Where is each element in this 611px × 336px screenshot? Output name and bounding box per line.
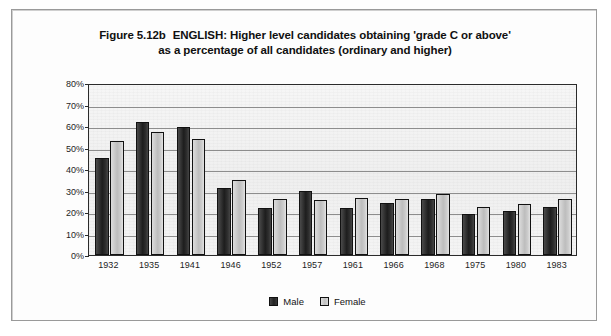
legend-swatch-male-icon bbox=[269, 297, 278, 306]
bar-male-1957 bbox=[299, 191, 313, 256]
bar-male-1941 bbox=[177, 127, 191, 255]
gridline bbox=[89, 107, 576, 108]
legend-swatch-female-icon bbox=[320, 297, 329, 306]
figure-root: Figure 5.12bENGLISH: Higher level candid… bbox=[0, 0, 611, 336]
bar-female-1980 bbox=[518, 204, 532, 255]
y-axis-tick bbox=[85, 256, 89, 257]
bar-female-1952 bbox=[273, 199, 287, 255]
bar-male-1946 bbox=[217, 188, 231, 255]
x-axis-label: 1980 bbox=[506, 260, 526, 270]
bar-female-1983 bbox=[558, 199, 572, 255]
legend-item-male: Male bbox=[269, 296, 304, 307]
bar-male-1952 bbox=[258, 208, 272, 255]
chart-legend: Male Female bbox=[12, 296, 611, 307]
x-axis-label: 1952 bbox=[261, 260, 281, 270]
legend-item-female: Female bbox=[320, 296, 366, 307]
y-axis-label: 20% bbox=[50, 208, 84, 218]
chart-title: Figure 5.12bENGLISH: Higher level candid… bbox=[48, 28, 562, 58]
x-axis-label: 1983 bbox=[547, 260, 567, 270]
legend-label-male: Male bbox=[283, 296, 304, 307]
x-axis-label: 1975 bbox=[465, 260, 485, 270]
chart-title-line-2: as a percentage of all candidates (ordin… bbox=[48, 43, 562, 58]
bar-male-1968 bbox=[421, 199, 435, 255]
bar-male-1983 bbox=[543, 207, 557, 255]
x-axis: 1932193519411946195219571961196619681975… bbox=[88, 260, 577, 274]
y-axis-label: 50% bbox=[50, 144, 84, 154]
x-axis-label: 1941 bbox=[180, 260, 200, 270]
legend-label-female: Female bbox=[334, 296, 366, 307]
y-axis-label: 80% bbox=[50, 79, 84, 89]
bar-female-1961 bbox=[355, 198, 369, 255]
y-axis-label: 40% bbox=[50, 165, 84, 175]
gridline bbox=[89, 128, 576, 129]
y-axis-label: 10% bbox=[50, 230, 84, 240]
bar-female-1932 bbox=[110, 141, 124, 255]
x-axis-label: 1968 bbox=[424, 260, 444, 270]
bar-male-1980 bbox=[503, 211, 517, 255]
figure-card: Figure 5.12bENGLISH: Higher level candid… bbox=[11, 9, 597, 321]
bar-male-1975 bbox=[462, 214, 476, 255]
bar-male-1961 bbox=[340, 208, 354, 255]
x-axis-label: 1935 bbox=[139, 260, 159, 270]
x-axis-label: 1961 bbox=[343, 260, 363, 270]
y-axis: 0%10%20%30%40%50%60%70%80% bbox=[48, 84, 84, 256]
chart-title-text-1: ENGLISH: Higher level candidates obtaini… bbox=[173, 29, 511, 41]
x-axis-label: 1946 bbox=[221, 260, 241, 270]
plot-area bbox=[88, 84, 577, 256]
bar-female-1946 bbox=[232, 180, 246, 255]
bar-female-1968 bbox=[436, 194, 450, 255]
x-axis-label: 1966 bbox=[384, 260, 404, 270]
y-axis-label: 30% bbox=[50, 187, 84, 197]
y-axis-label: 70% bbox=[50, 101, 84, 111]
bar-female-1966 bbox=[395, 199, 409, 255]
figure-number: Figure 5.12b bbox=[99, 29, 166, 41]
x-axis-label: 1957 bbox=[302, 260, 322, 270]
bar-male-1932 bbox=[95, 158, 109, 255]
bar-female-1975 bbox=[477, 207, 491, 255]
y-axis-label: 60% bbox=[50, 122, 84, 132]
bar-female-1941 bbox=[192, 139, 206, 255]
bar-male-1935 bbox=[136, 122, 150, 255]
bar-male-1966 bbox=[380, 203, 394, 255]
bar-female-1935 bbox=[151, 132, 165, 255]
bar-female-1957 bbox=[314, 200, 328, 255]
x-axis-label: 1932 bbox=[98, 260, 118, 270]
y-axis-label: 0% bbox=[50, 251, 84, 261]
chart-title-line-1: Figure 5.12bENGLISH: Higher level candid… bbox=[48, 28, 562, 43]
